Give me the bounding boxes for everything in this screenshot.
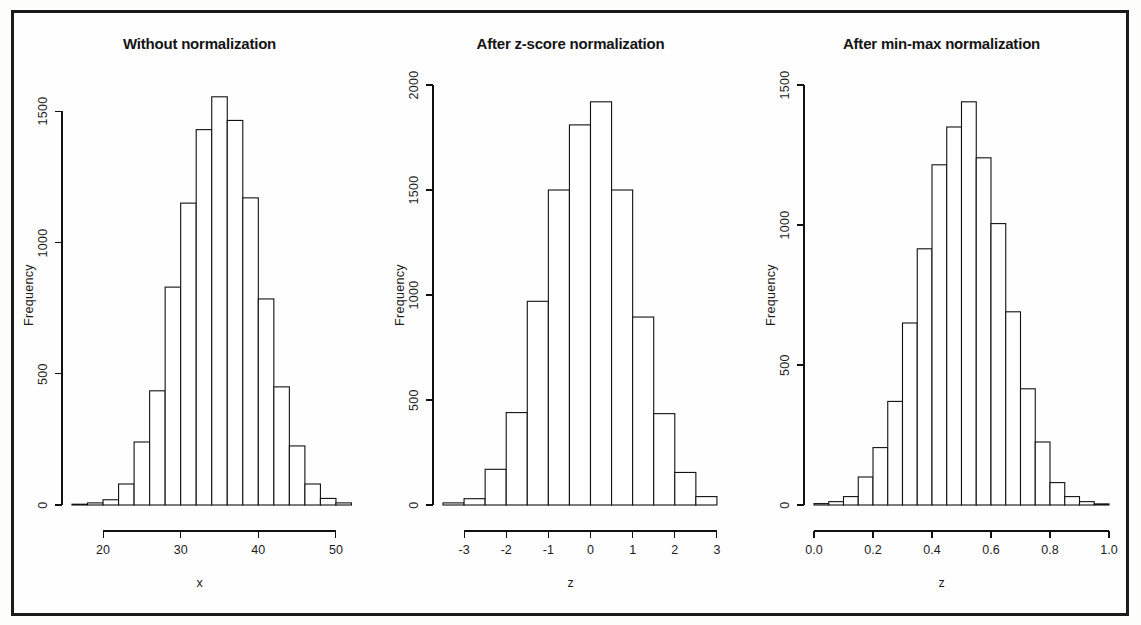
x-axis-label: z [756,576,1127,590]
histogram-bar [274,387,290,505]
histogram-bar [1035,442,1050,505]
histogram-bar [1021,389,1036,505]
y-tick-label: 1500 [407,175,421,204]
histogram-bar [917,249,932,505]
y-tick-label: 0 [778,501,792,508]
histogram-bar [873,448,888,505]
histogram-bar [1006,312,1021,505]
histogram-bar [72,504,88,505]
histogram-bar [696,497,717,505]
panel-min-max: After min-max normalization 050010001500… [756,13,1127,613]
histogram-bar [591,102,612,505]
histogram-bar [506,413,527,505]
x-tick-label: 20 [73,543,133,557]
histogram-bar [814,504,829,505]
histogram-bar [336,503,352,505]
histogram-bar [464,499,485,505]
panel-z-score: After z-score normalization 050010001500… [385,13,756,613]
x-tick-label: 1.0 [1079,543,1139,557]
figure-root: Without normalization 050010001500203040… [0,0,1141,625]
histogram-bar [443,503,464,505]
x-axis-label: x [14,576,385,590]
histogram-bar [569,125,590,505]
plot-area: 0500100015002000-3-2-10123Frequencyz [385,13,756,613]
histogram-bar [150,391,166,505]
y-tick-label: 2000 [407,70,421,99]
histogram-bar [119,484,135,505]
y-tick-label: 500 [407,389,421,411]
y-tick-label: 500 [36,363,50,385]
x-tick-label: 0.6 [961,543,1021,557]
histogram-bar [1094,504,1109,505]
plot-area: 05001000150020304050Frequencyx [14,13,385,613]
histogram-bar [527,301,548,505]
histogram-bar [991,224,1006,505]
histogram-bar [633,317,654,505]
y-tick-label: 500 [778,354,792,376]
x-tick-label: 0.0 [784,543,844,557]
histogram-bar [1065,497,1080,505]
histogram-bar [243,198,259,505]
x-tick-label: 50 [306,543,366,557]
histogram-bar [305,484,321,505]
histogram-bar [320,498,336,505]
y-tick-label: 0 [36,501,50,508]
x-tick-label: 0.8 [1020,543,1080,557]
plot-area: 0500100015000.00.20.40.60.81.0Frequencyz [756,13,1127,613]
y-axis-label: Frequency [393,264,407,326]
y-axis-label: Frequency [764,264,778,326]
histogram-bar [844,497,859,505]
y-tick-label: 1000 [778,210,792,239]
histogram-bar [88,503,104,505]
histogram-bar [165,287,181,505]
histogram-bar [103,500,119,505]
histogram-bar [548,190,569,505]
histogram-bar [888,401,903,505]
x-tick-label: 40 [228,543,288,557]
histogram-bar [289,446,305,505]
histogram-bar [212,97,228,505]
y-tick-label: 1500 [778,70,792,99]
histogram-bar [1050,483,1065,505]
histogram-bar [903,323,918,505]
x-tick-label: 30 [151,543,211,557]
y-axis-label: Frequency [22,264,36,326]
histogram-bar [227,120,243,505]
histogram-bar [858,477,873,505]
x-axis-label: z [385,576,756,590]
histogram-bar [654,414,675,505]
y-tick-label: 0 [407,501,421,508]
panel-without-normalization: Without normalization 050010001500203040… [14,13,385,613]
y-tick-label: 1500 [36,97,50,126]
y-tick-label: 1000 [407,280,421,309]
histogram-bar [134,442,150,505]
histogram-bar [1080,502,1095,505]
histogram-bar [612,190,633,505]
histogram-bar [947,127,962,505]
histogram-bar [976,158,991,505]
histogram-bar [932,165,947,505]
histogram-bar [196,130,212,505]
histogram-bar [485,469,506,505]
histogram-bar [181,203,197,505]
histogram-bar [258,299,274,505]
histogram-bar [962,102,977,505]
histogram-bar [675,472,696,505]
y-tick-label: 1000 [36,228,50,257]
x-tick-label: 0.2 [843,543,903,557]
panel-container: Without normalization 050010001500203040… [14,13,1127,613]
histogram-bar [829,502,844,505]
x-tick-label: 3 [687,543,747,557]
x-tick-label: 0.4 [902,543,962,557]
